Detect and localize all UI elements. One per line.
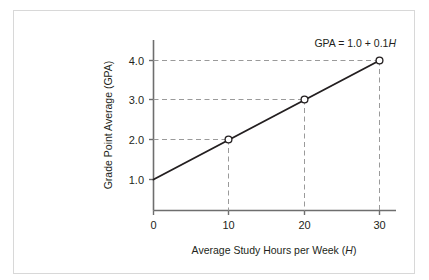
data-point-30-4[interactable] <box>376 57 383 64</box>
x-tick-label-0: 0 <box>150 219 156 231</box>
gpa-trend-line <box>154 61 380 180</box>
data-point-10-2[interactable] <box>225 136 232 143</box>
x-axis-title: Average Study Hours per Week (H) <box>192 244 357 256</box>
equation-variable: H <box>388 37 396 49</box>
y-tick-label-2: 2.0 <box>129 134 144 146</box>
equation-text: GPA = 1.0 + 0.1 <box>314 37 388 49</box>
x-axis-title-text: Average Study Hours per Week <box>192 244 342 256</box>
x-tick-label-30: 30 <box>373 219 385 231</box>
horizontal-guide-lines <box>154 61 380 140</box>
gpa-study-hours-line-chart: 4.0 3.0 2.0 1.0 0 10 20 30 Grade Point A… <box>0 0 429 280</box>
x-tick-label-10: 10 <box>222 219 234 231</box>
y-tick-label-4: 4.0 <box>129 55 144 67</box>
equation-annotation: GPA = 1.0 + 0.1H <box>314 37 396 49</box>
y-tick-label-3: 3.0 <box>129 94 144 106</box>
y-tick-labels: 4.0 3.0 2.0 1.0 <box>129 55 144 186</box>
data-point-20-3[interactable] <box>301 96 308 103</box>
figure-root: 4.0 3.0 2.0 1.0 0 10 20 30 Grade Point A… <box>0 0 429 280</box>
y-axis-title: Grade Point Average (GPA) <box>102 61 114 190</box>
x-tick-labels: 0 10 20 30 <box>150 219 385 231</box>
x-tick-label-20: 20 <box>298 219 310 231</box>
axis-group <box>154 40 397 211</box>
x-axis-title-close-paren: ) <box>353 244 357 256</box>
data-series-gpa-line <box>154 61 380 180</box>
y-tick-label-1: 1.0 <box>129 174 144 186</box>
vertical-guide-lines <box>229 61 380 211</box>
